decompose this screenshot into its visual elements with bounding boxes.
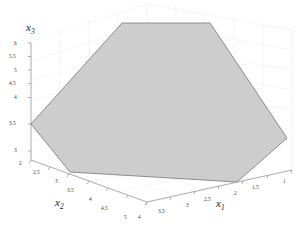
x1-tick-label: 1 bbox=[283, 179, 286, 184]
x2-tick-label: 2.5 bbox=[33, 170, 40, 175]
x2-axis-label: x2 bbox=[55, 197, 64, 211]
region-polygon bbox=[31, 23, 287, 182]
x1-axis-label: x1 bbox=[216, 198, 225, 212]
x3-tick-label: 6 bbox=[14, 41, 17, 46]
plot-canvas bbox=[0, 0, 305, 232]
x1-tick-label: 3 bbox=[186, 203, 189, 208]
x1-tick-label: 2.5 bbox=[204, 197, 211, 202]
x2-tick-label: 3.5 bbox=[67, 188, 74, 193]
x2-tick-label: 5 bbox=[124, 215, 127, 220]
x2-tick-label: 4 bbox=[89, 197, 92, 202]
x2-tick-label: 3 bbox=[55, 179, 58, 184]
x3-tick-label: 5.5 bbox=[9, 54, 16, 59]
x3-axis-label: x3 bbox=[26, 22, 35, 36]
x3-axis-line bbox=[28, 43, 31, 160]
x1-tick-label: 2 bbox=[234, 191, 237, 196]
x3-tick-label: 4 bbox=[14, 95, 17, 100]
x2-tick-label: 2 bbox=[19, 161, 22, 166]
x3-tick-label: 4.5 bbox=[9, 81, 16, 86]
x1-tick-label: 4 bbox=[138, 215, 141, 220]
x1-tick-label: 3.5 bbox=[158, 209, 165, 214]
x3-tick-label: 3.5 bbox=[9, 121, 16, 126]
x3-tick-label: 5 bbox=[14, 68, 17, 73]
x1-tick-label: 1.5 bbox=[252, 185, 259, 190]
x3-tick-label: 3 bbox=[14, 148, 17, 153]
plot-figure: x3 x2 x1 6 5.5 5 4.5 4 3.5 3 2 2.5 3 3.5… bbox=[0, 0, 305, 232]
x2-tick-label: 4.5 bbox=[101, 206, 108, 211]
